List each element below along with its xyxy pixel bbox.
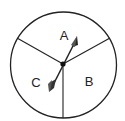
section-label-b: B [85, 74, 94, 89]
section-label-a: A [60, 28, 69, 43]
section-label-c: C [31, 75, 40, 90]
spinner-pivot [60, 61, 65, 66]
spinner-diagram: A B C [0, 0, 125, 121]
